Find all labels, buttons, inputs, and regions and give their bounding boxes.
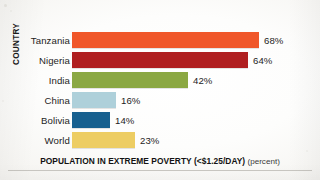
bar-wrap-china: 16% (72, 90, 316, 110)
scanned-page: COUNTRY Tanzania 68% Nigeria 64% India (0, 0, 320, 180)
value-label-world: 23% (140, 135, 160, 146)
category-label-bolivia: Bolivia (14, 115, 70, 126)
x-axis-title: POPULATION IN EXTREME POVERTY (<$1.25/DA… (0, 150, 320, 168)
bar-wrap-nigeria: 64% (72, 50, 316, 70)
bar-tanzania (72, 32, 259, 48)
x-axis-title-unit: (percent) (245, 157, 280, 166)
bar-wrap-bolivia: 14% (72, 110, 316, 130)
category-label-china: China (14, 95, 70, 106)
bar-india (72, 72, 188, 88)
category-label-nigeria: Nigeria (14, 55, 70, 66)
value-label-tanzania: 68% (264, 35, 284, 46)
bar-row-india: India 42% (0, 70, 320, 90)
value-label-nigeria: 64% (253, 55, 273, 66)
bar-wrap-world: 23% (72, 130, 316, 150)
value-label-china: 16% (121, 95, 141, 106)
plot-area: Tanzania 68% Nigeria 64% India 42% (0, 30, 320, 150)
page-divider-rule (8, 170, 312, 171)
bar-row-tanzania: Tanzania 68% (0, 30, 320, 50)
category-label-world: World (14, 135, 70, 146)
bar-chart: COUNTRY Tanzania 68% Nigeria 64% India (0, 0, 320, 180)
value-label-india: 42% (193, 75, 213, 86)
bar-nigeria (72, 52, 248, 68)
bar-china (72, 92, 116, 108)
bar-world (72, 132, 135, 148)
category-label-india: India (14, 75, 70, 86)
value-label-bolivia: 14% (115, 115, 135, 126)
x-axis-title-main: POPULATION IN EXTREME POVERTY (<$1.25/DA… (40, 156, 245, 166)
bar-bolivia (72, 112, 110, 128)
bar-row-china: China 16% (0, 90, 320, 110)
bar-wrap-tanzania: 68% (72, 30, 316, 50)
bar-row-nigeria: Nigeria 64% (0, 50, 320, 70)
bar-wrap-india: 42% (72, 70, 316, 90)
bar-row-world: World 23% (0, 130, 320, 150)
category-label-tanzania: Tanzania (14, 35, 70, 46)
bar-row-bolivia: Bolivia 14% (0, 110, 320, 130)
